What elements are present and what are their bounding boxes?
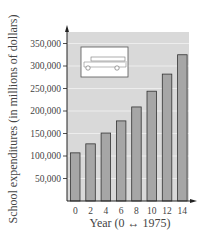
y-axis-arrow — [65, 25, 69, 32]
bar — [116, 121, 126, 201]
y-tick-label: 200,000 — [30, 106, 61, 116]
y-tick-labels: 50,000100,000150,000200,000250,000300,00… — [30, 39, 67, 184]
x-tick-label: 12 — [162, 206, 172, 216]
x-tick-label: 8 — [134, 206, 139, 216]
x-tick-labels: 02468101214 — [73, 206, 187, 216]
bar-chart: 50,000100,000150,000200,000250,000300,00… — [0, 0, 206, 236]
y-tick-label: 350,000 — [30, 39, 61, 49]
school-bus-icon — [81, 47, 128, 77]
bar — [71, 153, 81, 201]
y-tick-label: 300,000 — [30, 61, 61, 71]
x-tick-label: 14 — [178, 206, 188, 216]
bar — [132, 107, 142, 201]
x-tick-label: 10 — [147, 206, 157, 216]
y-tick-label: 250,000 — [30, 84, 61, 94]
x-axis-arrow — [190, 199, 197, 203]
y-axis-label: School expenditures (in millions of doll… — [6, 15, 20, 224]
bar — [86, 144, 96, 201]
bar — [162, 74, 172, 201]
bar — [178, 55, 188, 201]
y-tick-label: 50,000 — [35, 174, 61, 184]
x-tick-label: 0 — [73, 206, 78, 216]
x-tick-label: 2 — [88, 206, 93, 216]
bar — [147, 91, 157, 201]
x-tick-label: 6 — [119, 206, 124, 216]
bar — [101, 133, 111, 201]
y-tick-label: 150,000 — [30, 129, 61, 139]
y-tick-label: 100,000 — [30, 151, 61, 161]
x-axis-label: Year (0 ↔ 1975) — [89, 216, 170, 230]
x-tick-label: 4 — [103, 206, 108, 216]
